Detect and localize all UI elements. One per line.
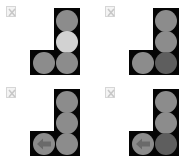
signal-tile-4 [99, 81, 183, 162]
left-arrow-icon [132, 133, 154, 155]
left-arrow-icon [33, 133, 55, 155]
broken-image-icon [6, 6, 16, 17]
lamp-middle [155, 31, 177, 53]
lamp-bottom [56, 133, 78, 155]
lamp-top [56, 10, 78, 32]
traffic-signal [129, 89, 179, 156]
lamp-bottom [155, 52, 177, 74]
lamp-left [132, 133, 154, 155]
lamp-middle [56, 112, 78, 134]
traffic-signal [30, 8, 80, 75]
traffic-signal [30, 89, 80, 156]
broken-image-icon [105, 87, 115, 98]
traffic-signal [129, 8, 179, 75]
broken-image-icon [105, 6, 115, 17]
lamp-left [132, 52, 154, 74]
lamp-left [33, 52, 55, 74]
signal-tile-2 [99, 0, 183, 81]
broken-image-icon [6, 87, 16, 98]
lamp-left [33, 133, 55, 155]
lamp-bottom [56, 52, 78, 74]
lamp-top [155, 10, 177, 32]
lamp-top [155, 91, 177, 113]
lamp-top [56, 91, 78, 113]
signal-tile-3 [0, 81, 92, 162]
lamp-middle [56, 31, 78, 53]
lamp-middle [155, 112, 177, 134]
lamp-bottom [155, 133, 177, 155]
signal-tile-1 [0, 0, 92, 81]
